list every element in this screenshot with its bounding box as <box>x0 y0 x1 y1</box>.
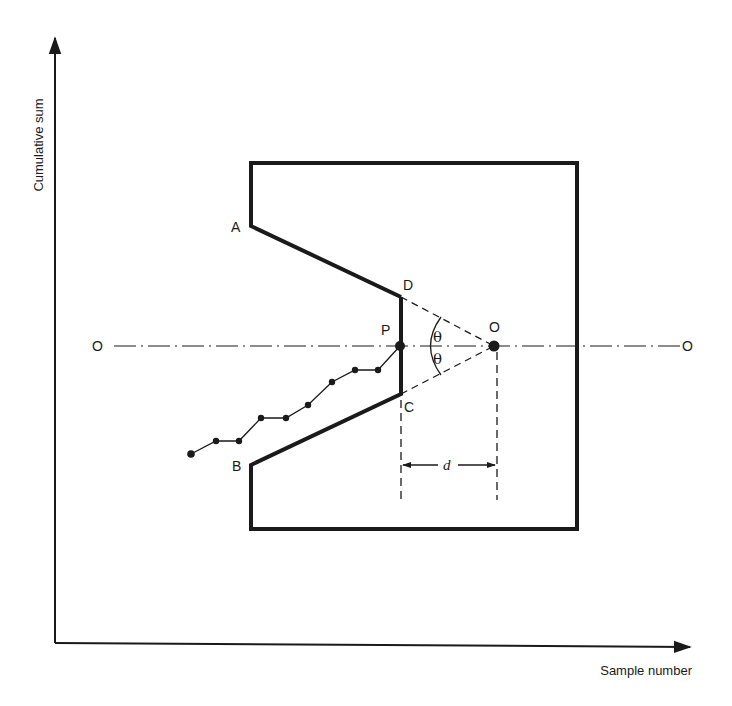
x-axis <box>55 643 690 647</box>
lead-distance-dimension <box>401 352 497 500</box>
data-point <box>187 450 195 458</box>
label-b: B <box>232 458 241 474</box>
label-o-vertex: O <box>489 319 500 335</box>
data-point <box>375 367 381 373</box>
data-point <box>305 402 311 408</box>
data-point <box>236 438 242 444</box>
centerline-right-label: O <box>682 338 693 354</box>
theta-lower-label: θ <box>433 350 442 368</box>
label-d: D <box>403 277 413 293</box>
theta-upper-label: θ <box>433 328 442 346</box>
vmask-diagram: Cumulative sum Sample number O O θ θ d <box>0 0 732 706</box>
data-point <box>352 367 358 373</box>
label-c: C <box>404 399 414 415</box>
label-p: P <box>381 322 390 338</box>
label-a: A <box>231 219 241 235</box>
data-point <box>213 438 219 444</box>
lead-distance-label: d <box>443 457 451 473</box>
data-point <box>283 415 289 421</box>
x-axis-label: Sample number <box>600 663 692 678</box>
y-axis-label: Cumulative sum <box>31 98 46 191</box>
data-point <box>258 415 264 421</box>
point-p-dot <box>395 341 405 351</box>
centerline-left-label: O <box>92 338 103 354</box>
cusum-series <box>187 341 405 458</box>
data-point <box>329 379 335 385</box>
vertex-o-dot <box>489 341 500 352</box>
